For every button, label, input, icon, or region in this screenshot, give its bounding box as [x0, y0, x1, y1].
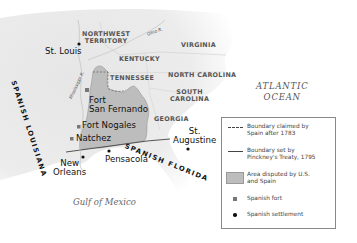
solid-line-icon: [228, 151, 243, 152]
label-fort-nogales: Fort Nogales: [82, 121, 136, 130]
square-icon: [233, 197, 237, 201]
label-st-augustine: St. Augustine: [173, 127, 216, 146]
label-new-orleans: New Orleans: [53, 159, 86, 178]
label-pensacola: Pensacola: [105, 155, 148, 164]
gray-swatch-icon: [226, 172, 244, 184]
label-atlantic-ocean: ATLANTIC OCEAN: [256, 81, 309, 102]
label-fort-san-fernando: Fort San Fernando: [89, 96, 148, 115]
label-north-carolina: NORTH CAROLINA: [168, 72, 236, 78]
label-virginia: VIRGINIA: [181, 42, 216, 48]
dot-icon: [233, 213, 237, 217]
label-st-louis: St. Louis: [45, 47, 82, 56]
legend-label: Boundary set by Pinckney's Treaty, 1795: [247, 147, 316, 161]
fort-marker-nogales: [77, 125, 81, 129]
label-south-carolina: SOUTH CAROLINA: [170, 89, 209, 103]
legend-label: Spanish settlement: [247, 211, 303, 218]
settlement-marker-pensacola: [107, 149, 110, 152]
settlement-marker-st-augustine: [186, 147, 189, 150]
fort-marker-san-fernando: [85, 88, 89, 92]
legend-label: Boundary claimed by Spain after 1783: [247, 123, 309, 137]
label-northwest-territory: NORTHWEST TERRITORY: [82, 31, 130, 45]
label-tennessee: TENNESSEE: [110, 75, 154, 81]
label-kentucky: KENTUCKY: [119, 56, 160, 62]
label-georgia: GEORGIA: [154, 116, 189, 122]
legend-label: Area disputed by U.S. and Spain: [247, 171, 310, 185]
legend-label: Spanish fort: [247, 195, 282, 202]
dashed-line-icon: [228, 127, 243, 128]
fort-marker-natchez: [70, 137, 74, 141]
label-natchez: Natchez: [76, 134, 111, 143]
label-gulf-of-mexico: Gulf of Mexico: [73, 198, 136, 207]
map-legend: Boundary claimed by Spain after 1783 Bou…: [221, 117, 336, 229]
